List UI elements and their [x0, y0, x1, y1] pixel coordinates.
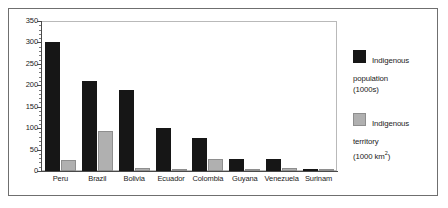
y-axis-tick-mark: [37, 107, 41, 108]
legend-label-population-line1: Indigenous: [372, 56, 409, 65]
legend-label-territory-unit: (1000 km2): [353, 148, 439, 162]
legend-label-population-line2: population: [353, 74, 388, 83]
bar-population: [82, 81, 97, 171]
legend-entry-population: Indigenous population (1000s): [353, 49, 439, 96]
bar-territory: [98, 131, 113, 171]
y-axis-minor-tick: [39, 98, 41, 99]
y-axis-tick-label: 200: [12, 81, 38, 89]
bar-territory: [282, 168, 297, 171]
chart-figure: 050100150200250300350 PeruBrazilBoliviaE…: [8, 8, 438, 196]
y-axis-minor-tick: [39, 72, 41, 73]
y-axis-tick-label: 150: [12, 103, 38, 111]
y-axis-tick-label: 350: [12, 17, 38, 25]
y-axis-tick-mark: [37, 171, 41, 172]
y-axis-tick-mark: [37, 64, 41, 65]
y-axis-tick-label: 300: [12, 38, 38, 46]
y-axis-minor-tick: [39, 137, 41, 138]
bar-population: [156, 128, 171, 171]
y-axis-tick-mark: [37, 42, 41, 43]
bar-population: [45, 42, 60, 171]
y-axis-minor-tick: [39, 132, 41, 133]
y-axis-minor-tick: [39, 115, 41, 116]
y-axis-minor-tick: [39, 90, 41, 91]
x-axis-labels: PeruBrazilBoliviaEcuadorColombiaGuyanaVe…: [42, 174, 337, 190]
y-axis-minor-tick: [39, 68, 41, 69]
y-axis-minor-tick: [39, 124, 41, 125]
x-axis-line: [41, 171, 338, 172]
y-axis-tick-mark: [37, 128, 41, 129]
y-axis-minor-tick: [39, 162, 41, 163]
bar-territory: [61, 160, 76, 171]
x-axis-tick-label: Peru: [42, 174, 79, 183]
y-axis-minor-tick: [39, 77, 41, 78]
y-axis-minor-tick: [39, 145, 41, 146]
legend-entry-territory: Indigenous territory (1000 km2): [353, 112, 439, 162]
legend-label-territory-line1: Indigenous: [372, 119, 409, 128]
x-axis-tick-label: Guyana: [226, 174, 263, 183]
bar-territory: [319, 169, 334, 171]
y-axis-minor-tick: [39, 102, 41, 103]
y-axis-labels: 050100150200250300350: [9, 9, 38, 195]
plot-block: 050100150200250300350 PeruBrazilBoliviaE…: [9, 9, 339, 195]
y-axis-minor-tick: [39, 81, 41, 82]
y-axis-minor-tick: [39, 111, 41, 112]
bar-population: [229, 159, 244, 171]
y-axis-minor-tick: [39, 25, 41, 26]
y-axis-minor-tick: [39, 141, 41, 142]
legend-swatch-territory-icon: [353, 113, 366, 126]
bar-territory: [245, 169, 260, 171]
y-axis-minor-tick: [39, 154, 41, 155]
bar-population: [192, 138, 207, 171]
y-axis-minor-tick: [39, 94, 41, 95]
bar-territory: [208, 159, 223, 171]
bar-population: [266, 159, 281, 171]
y-axis-tick-mark: [37, 150, 41, 151]
y-axis-minor-tick: [39, 167, 41, 168]
y-axis-minor-tick: [39, 34, 41, 35]
y-axis-minor-tick: [39, 60, 41, 61]
y-axis-tick-label: 0: [12, 167, 38, 175]
y-axis-minor-tick: [39, 158, 41, 159]
y-axis-tick-mark: [37, 21, 41, 22]
x-axis-tick-label: Brazil: [79, 174, 116, 183]
legend-swatch-population-icon: [353, 50, 366, 63]
y-axis-tick-label: 100: [12, 124, 38, 132]
legend-label-population-unit: (1000s): [353, 85, 439, 96]
y-axis-minor-tick: [39, 51, 41, 52]
y-axis-minor-tick: [39, 47, 41, 48]
y-axis-minor-tick: [39, 120, 41, 121]
bars-layer: [42, 21, 337, 171]
bar-territory: [135, 168, 150, 171]
x-axis-tick-label: Ecuador: [153, 174, 190, 183]
x-axis-tick-label: Venezuela: [263, 174, 300, 183]
bar-population: [303, 169, 318, 171]
bar-territory: [172, 169, 187, 171]
chart-legend: Indigenous population (1000s) Indigenous…: [353, 49, 439, 178]
x-axis-tick-label: Surinam: [300, 174, 337, 183]
x-axis-tick-label: Bolivia: [116, 174, 153, 183]
bar-population: [119, 90, 134, 171]
x-axis-tick-label: Colombia: [190, 174, 227, 183]
y-axis-minor-tick: [39, 55, 41, 56]
legend-label-territory-line2: territory: [353, 137, 379, 146]
y-axis-tick-mark: [37, 85, 41, 86]
y-axis-minor-tick: [39, 30, 41, 31]
y-axis-minor-tick: [39, 38, 41, 39]
y-axis-tick-label: 250: [12, 60, 38, 68]
y-axis-tick-label: 50: [12, 146, 38, 154]
